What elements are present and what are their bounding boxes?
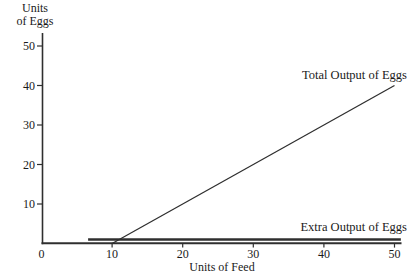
x-tick-label: 0 <box>29 248 55 261</box>
y-axis-title: Units of Eggs <box>6 2 64 28</box>
chart-figure: Units of Eggs 1020304050 01020304050 Uni… <box>0 0 415 275</box>
annotation-extra-output-of-eggs: Extra Output of Eggs <box>300 220 407 235</box>
x-tick-label: 40 <box>311 248 337 261</box>
x-tick-label: 10 <box>99 248 125 261</box>
y-tick-label: 10 <box>0 197 35 211</box>
y-tick-label: 50 <box>0 39 35 53</box>
y-tick-label: 20 <box>0 158 35 172</box>
x-tick-label: 50 <box>382 248 408 261</box>
y-axis-title-line2: of Eggs <box>6 15 64 28</box>
y-tick-label: 40 <box>0 79 35 93</box>
x-axis-title: Units of Feed <box>172 260 272 275</box>
annotation-total-output-of-eggs: Total Output of Eggs <box>302 68 407 83</box>
y-tick-label: 30 <box>0 118 35 132</box>
